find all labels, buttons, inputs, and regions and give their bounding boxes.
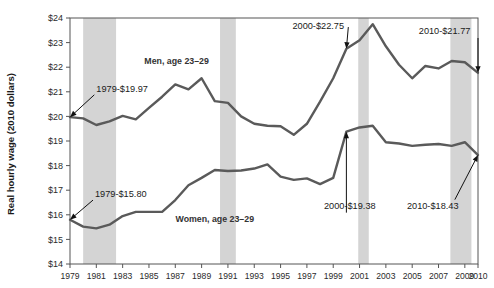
y-tick-label: $14 (48, 259, 63, 269)
x-tick-label: 1979 (60, 271, 79, 281)
annotation-women-2000: 2000-$19.38 (324, 201, 376, 211)
women-series-label: Women, age 23–29 (175, 214, 254, 224)
annotation-women-1979: 1979-$15.80 (95, 189, 147, 199)
x-tick-label: 2005 (403, 271, 422, 281)
chart-canvas: Real hourly wage (2010 dollars) $24$23$2… (0, 0, 494, 288)
x-tick-label: 2007 (429, 271, 448, 281)
x-tick-label: 1987 (166, 271, 185, 281)
recession-2001 (358, 18, 369, 264)
x-tick-label: 1999 (324, 271, 343, 281)
y-tick-label: $22 (48, 62, 63, 72)
x-tick-label: 1985 (139, 271, 158, 281)
recession-2008-2009 (450, 18, 471, 264)
y-tick-label: $15 (48, 235, 63, 245)
x-tick-label: 1993 (245, 271, 264, 281)
x-tick-label: 1995 (271, 271, 290, 281)
y-tick-label: $21 (48, 87, 63, 97)
x-tick-label: 2003 (376, 271, 395, 281)
wage-line-chart: Real hourly wage (2010 dollars) $24$23$2… (0, 0, 494, 288)
y-tick-label: $20 (48, 112, 63, 122)
annotation-women-2010: 2010-$18.43 (407, 201, 459, 211)
x-tick-label: 1983 (113, 271, 132, 281)
x-tick-label: 2001 (350, 271, 369, 281)
y-tick-label: $23 (48, 38, 63, 48)
annotation-men-2010: 2010-$21.77 (419, 26, 471, 36)
y-axis-title: Real hourly wage (2010 dollars) (5, 73, 16, 215)
y-tick-label: $19 (48, 136, 63, 146)
y-tick-label: $24 (48, 13, 63, 23)
annotation-men-1979: 1979-$19.97 (96, 84, 148, 94)
x-tick-label: 1989 (192, 271, 211, 281)
recession-1990-1991 (220, 18, 236, 264)
y-tick-label: $17 (48, 185, 63, 195)
x-tick-label: 1991 (218, 271, 237, 281)
x-tick-label: 2010 (468, 271, 487, 281)
x-tick-label: 1981 (87, 271, 106, 281)
y-tick-label: $16 (48, 210, 63, 220)
y-tick-label: $18 (48, 161, 63, 171)
annotation-men-2000: 2000-$22.75 (292, 21, 344, 31)
x-tick-label: 1997 (297, 271, 316, 281)
men-series-label: Men, age 23–29 (144, 56, 209, 66)
